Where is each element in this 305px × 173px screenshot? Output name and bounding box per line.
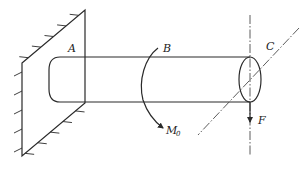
hatch-mark <box>14 129 22 133</box>
wall-plate <box>22 10 85 156</box>
shaft <box>49 57 261 102</box>
hatch-mark <box>45 36 54 37</box>
hatch-mark <box>25 153 34 154</box>
label-b: B <box>162 42 171 55</box>
hatch-mark <box>14 110 22 114</box>
hatch-mark <box>50 132 59 133</box>
hatch-mark <box>19 57 28 58</box>
hatch-mark <box>63 122 72 123</box>
hatch-mark <box>14 148 22 152</box>
hatch-mark <box>57 25 66 26</box>
hatch-mark <box>14 91 22 95</box>
label-c: C <box>266 40 275 53</box>
hatch-mark <box>76 111 85 112</box>
label-moment-subscript: 0 <box>176 130 181 138</box>
label-force: F <box>257 114 266 127</box>
hatch-mark <box>38 143 47 144</box>
shaft-diagram: A B C M 0 F <box>0 0 305 173</box>
label-a: A <box>67 42 76 55</box>
moment-arrow <box>141 48 163 128</box>
shaft-left-end <box>49 57 60 102</box>
hatch-mark <box>70 14 79 15</box>
diagonal-centerline <box>198 28 299 135</box>
hatch-mark <box>32 46 41 47</box>
hatch-mark <box>14 72 22 76</box>
